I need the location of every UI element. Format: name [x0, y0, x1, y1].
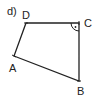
right-angle-dot-icon: [75, 26, 77, 28]
vertex-label-a: A: [9, 62, 17, 74]
vertex-label-b: B: [77, 85, 84, 97]
quadrilateral-diagram: d) D C A B: [0, 0, 97, 97]
vertex-label-c: C: [84, 17, 92, 29]
quadrilateral-abcd: [14, 23, 79, 81]
vertex-label-d: D: [22, 9, 30, 21]
part-label: d): [7, 5, 17, 17]
